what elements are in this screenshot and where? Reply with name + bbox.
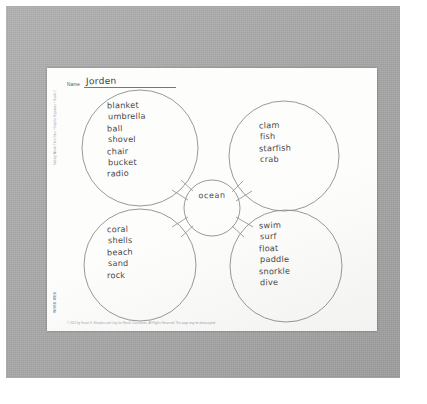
bubble-bottom-right-outline (230, 210, 342, 322)
worksheet-page: Name Jorden Making Words Their Own • Gra… (47, 68, 377, 331)
bubble-top-left-outline (82, 90, 198, 206)
bubble-top-right-outline (229, 101, 339, 211)
connector-center-bottom-right-b (236, 217, 253, 227)
word-web-diagram (47, 68, 377, 331)
bubble-center-outline (184, 180, 240, 236)
connector-center-top-right-b (236, 191, 252, 201)
bubble-bottom-left-outline (84, 209, 196, 321)
photographed-worksheet: Name Jorden Making Words Their Own • Gra… (0, 0, 427, 404)
